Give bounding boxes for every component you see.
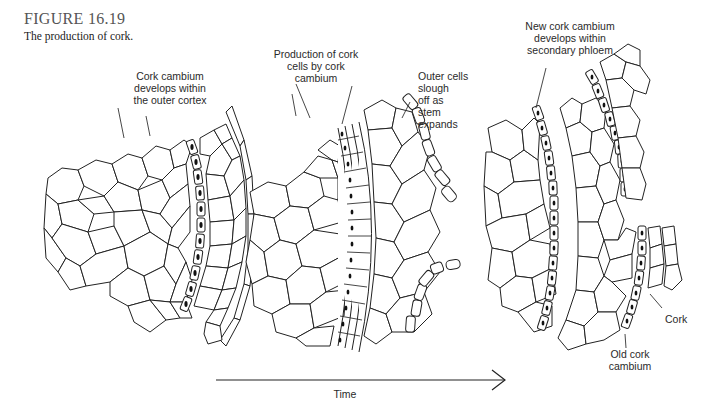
old-cork-cambium-label: Old cork cambium (600, 348, 660, 372)
stage-1-label: Cork cambium develops within the outer c… (100, 70, 240, 106)
time-label: Time (315, 388, 375, 400)
cork-layers-2 (338, 122, 372, 352)
stage-1-tissue (44, 106, 254, 346)
stage-3-label: New cork cambium develops within seconda… (510, 20, 630, 56)
stage-3-tissue (484, 44, 682, 350)
stage-2-label: Production of cork cells by cork cambium (256, 48, 376, 84)
stage-2-slough-label: Outer cells slough off as stem expands (418, 70, 498, 130)
time-arrow (216, 370, 505, 390)
cork-label: Cork (665, 313, 705, 325)
